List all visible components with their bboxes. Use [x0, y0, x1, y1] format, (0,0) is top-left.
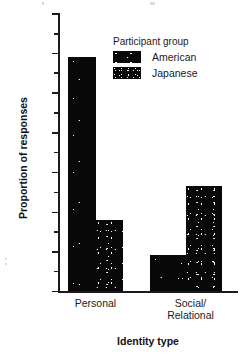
- bar-japanese-social-relational: [186, 186, 222, 291]
- legend-title: Participant group: [113, 36, 198, 47]
- legend-label-american: American: [152, 51, 196, 63]
- y-axis-title: Proportion of responses: [17, 73, 29, 243]
- x-category-label-line1: Personal: [53, 297, 138, 309]
- scan-artifact: [150, 2, 155, 5]
- legend-label-japanese: Japanese: [152, 67, 198, 79]
- legend-swatch-japanese: [113, 67, 141, 79]
- legend: Participant group American Japanese: [113, 36, 198, 83]
- x-axis-title: Identity type: [58, 335, 238, 347]
- scan-artifact: [5, 263, 7, 265]
- bar-japanese-personal: [96, 220, 123, 292]
- scan-artifact: [42, 2, 44, 5]
- bar-chart: 70 60 50 40 30 20 10: [0, 0, 250, 354]
- x-category-label-line2: Relational: [143, 309, 238, 321]
- x-category-label-personal: Personal: [53, 297, 138, 309]
- bar-american-personal: [68, 57, 96, 291]
- scan-artifact: [5, 258, 7, 260]
- x-axis-line: [58, 291, 238, 293]
- legend-item-japanese: Japanese: [113, 67, 198, 79]
- x-category-label-line1: Social/: [143, 297, 238, 309]
- legend-swatch-american: [113, 51, 141, 63]
- x-category-label-social-relational: Social/ Relational: [143, 297, 238, 321]
- bar-american-social-relational: [150, 255, 186, 291]
- legend-item-american: American: [113, 51, 198, 63]
